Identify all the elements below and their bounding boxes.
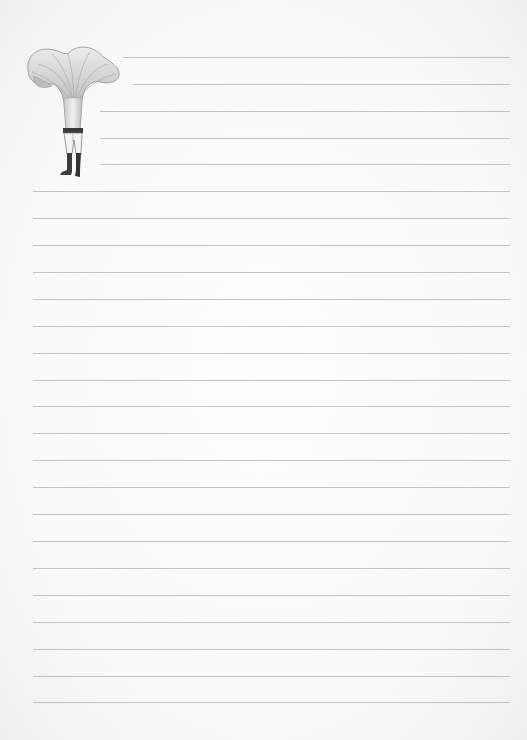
writing-line	[33, 622, 510, 623]
writing-line	[33, 353, 510, 354]
writing-line	[33, 487, 510, 488]
writing-line	[100, 138, 510, 139]
writing-line	[33, 460, 510, 461]
mushroom-figure-illustration	[24, 42, 122, 180]
writing-line	[33, 676, 510, 677]
writing-line	[33, 649, 510, 650]
writing-line	[100, 164, 510, 165]
writing-line	[33, 406, 510, 407]
lined-paper	[0, 0, 527, 740]
writing-line	[33, 299, 510, 300]
writing-line	[33, 541, 510, 542]
writing-line	[33, 191, 510, 192]
writing-line	[33, 595, 510, 596]
writing-line	[33, 514, 510, 515]
writing-line	[33, 218, 510, 219]
writing-line	[100, 111, 510, 112]
writing-line	[33, 433, 510, 434]
writing-line	[33, 326, 510, 327]
writing-line	[133, 84, 510, 85]
writing-line	[123, 57, 510, 58]
writing-line	[33, 272, 510, 273]
writing-line	[33, 245, 510, 246]
writing-line	[33, 702, 510, 703]
writing-line	[33, 380, 510, 381]
writing-line	[33, 568, 510, 569]
